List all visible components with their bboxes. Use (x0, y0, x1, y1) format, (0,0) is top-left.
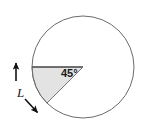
arrow-down-right (25, 99, 38, 113)
figure-canvas: 45° L (0, 0, 144, 128)
geometry-figure: 45° L (0, 0, 144, 128)
arc-length-label: L (16, 85, 24, 100)
angle-label: 45° (61, 67, 78, 79)
